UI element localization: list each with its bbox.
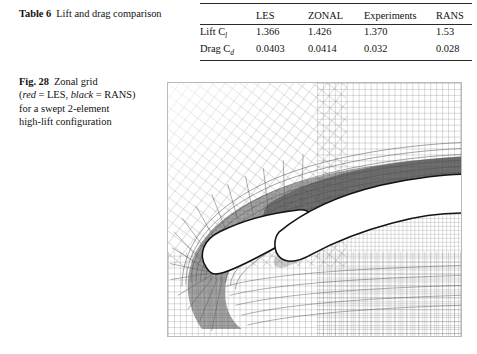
column-header-les: LES <box>256 9 308 25</box>
figure-legend-red-eq: = LES, <box>36 89 71 100</box>
figure-legend-black-eq: = RANS) <box>93 89 135 100</box>
cell-lift-rans: 1.53 <box>436 25 472 43</box>
column-header-rans: RANS <box>436 9 472 25</box>
cell-lift-les: 1.366 <box>256 25 308 43</box>
row-label-lift: Lift Cl <box>200 25 256 43</box>
cell-drag-les: 0.0403 <box>256 42 308 61</box>
table-caption: Table 6Lift and drag comparison <box>19 7 179 20</box>
cell-lift-experiments: 1.370 <box>364 25 436 43</box>
cell-drag-rans: 0.028 <box>436 42 472 61</box>
figure-legend-red: red <box>22 89 35 100</box>
figure-caption-line3: for a swept 2-element <box>19 103 109 114</box>
figure-caption-line4: high-lift configuration <box>19 116 112 127</box>
lift-drag-table-block: LES ZONAL Experiments RANS Lift Cl 1.366… <box>200 3 472 61</box>
figure-caption-label: Fig. 28 <box>19 76 49 87</box>
table-caption-label: Table 6 <box>19 8 51 19</box>
cell-drag-zonal: 0.0414 <box>308 42 364 61</box>
table-header-row: LES ZONAL Experiments RANS <box>200 9 472 25</box>
zonal-grid-svg: Zonal computational grid around a swept … <box>168 83 461 336</box>
row-label-drag: Drag Cd <box>200 42 256 61</box>
lift-drag-table: LES ZONAL Experiments RANS Lift Cl 1.366… <box>200 3 472 61</box>
zonal-grid-figure: Zonal computational grid around a swept … <box>167 82 462 337</box>
column-header-experiments: Experiments <box>364 9 436 25</box>
cell-lift-zonal: 1.426 <box>308 25 364 43</box>
table-caption-text: Lift and drag comparison <box>56 8 161 19</box>
figure-caption-title: Zonal grid <box>54 76 98 87</box>
column-header-blank <box>200 9 256 25</box>
table-row: Drag Cd 0.0403 0.0414 0.032 0.028 <box>200 42 472 61</box>
figure-caption: Fig. 28Zonal grid (red = LES, black = RA… <box>19 75 167 129</box>
column-header-zonal: ZONAL <box>308 9 364 25</box>
table-row: Lift Cl 1.366 1.426 1.370 1.53 <box>200 25 472 43</box>
figure-legend-black: black <box>71 89 94 100</box>
cell-drag-experiments: 0.032 <box>364 42 436 61</box>
